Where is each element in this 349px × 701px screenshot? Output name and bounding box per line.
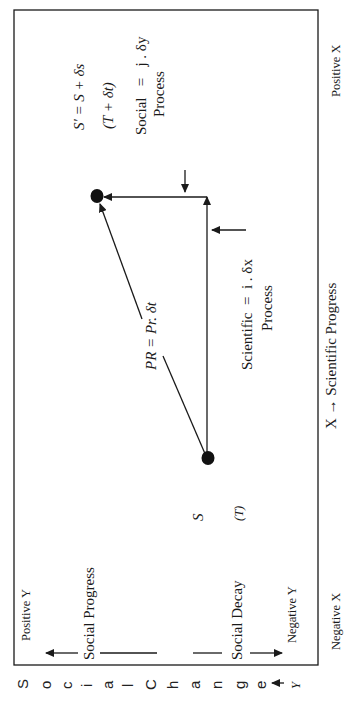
scientific-process-formula: Scientific = i . δx <box>239 259 255 370</box>
axis-title-letter: h <box>164 681 181 689</box>
x-axis-title: X → Scientific Progress <box>323 283 339 429</box>
scientific-process-caption: Process <box>259 285 275 331</box>
axis-title-letter: o <box>37 681 54 689</box>
end-point <box>91 189 104 203</box>
axis-title-letter: e <box>252 681 269 689</box>
axis-title-letter: a <box>99 680 116 689</box>
social-progress-label: Social Progress <box>81 567 97 660</box>
progress-formula: PR = Pr. δt <box>143 301 159 371</box>
axis-title-letter: S <box>14 679 31 689</box>
social-change-axis-title: S o c i a l C h a n g e Y <box>14 679 303 690</box>
y-axis: Positive Y Social Progress Social Decay … <box>19 567 299 660</box>
axis-title-letter: g <box>231 681 248 689</box>
positive-y-label: Positive Y <box>19 589 33 641</box>
axis-title-var: Y <box>289 680 303 689</box>
negative-y-label: Negative Y <box>285 586 299 643</box>
start-point-time: (T) <box>232 506 246 521</box>
axis-title-letter: i <box>78 684 95 687</box>
axis-title-letter: l <box>119 684 136 687</box>
end-point-formula: S' = S + δs <box>71 64 87 130</box>
social-change-diagram: Positive Y Social Progress Social Decay … <box>0 0 349 701</box>
start-point-label: S <box>190 513 206 521</box>
progress-vector-upper <box>100 204 142 319</box>
social-decay-label: Social Decay <box>229 580 245 660</box>
positive-x-label: Positive X <box>329 45 343 97</box>
social-process-caption: Process <box>151 71 167 117</box>
axis-title-letter: n <box>208 681 225 689</box>
axis-title-letter: a <box>186 680 203 689</box>
axis-title-letter: C <box>142 679 159 690</box>
end-point-time: (T + δt) <box>100 82 117 129</box>
progress-vector-lower <box>163 356 206 456</box>
axis-title-letter: c <box>58 681 75 689</box>
negative-x-label: Negative X <box>329 593 343 650</box>
start-point <box>202 451 215 465</box>
social-process-formula: Social = j . δy <box>133 36 149 135</box>
